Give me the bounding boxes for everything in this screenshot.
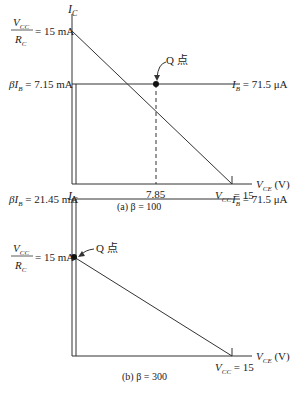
ic-max-label-b: = 15 mA [35, 251, 74, 263]
frac-num-b: VCC [13, 242, 29, 257]
chart-b: IC IC βIB = 21.45 mA IB = 71.5 μA VCC RC… [8, 189, 290, 383]
load-line-a [72, 31, 232, 184]
chart-a: IC VCC RC = 15 mA βIB = 7.15 mA IB = 71.… [8, 2, 290, 213]
beta-ib-label-a: βIB = 7.15 mA [8, 78, 73, 93]
frac-num-a: VCC [13, 16, 29, 31]
caption-a: (a) β = 100 [117, 201, 161, 213]
vcc-label-b: VCC = 15 [215, 361, 254, 376]
xlabel-b: VCE (V) [256, 350, 290, 365]
vce-q-label-a: 7.85 [146, 188, 166, 200]
q-point-a [153, 81, 159, 87]
q-label-a: Q 点 [166, 54, 188, 66]
ib-label-a: IB = 71.5 μA [231, 78, 288, 93]
caption-b: (b) β = 300 [122, 371, 167, 383]
frac-den-a: RC [14, 33, 27, 48]
ic-max-label-a: = 15 mA [35, 25, 74, 37]
q-label-b: Q 点 [96, 242, 118, 254]
q-arrowhead-a [154, 75, 160, 81]
xlabel-a: VCE (V) [256, 178, 290, 193]
beta-ib-label-b: βIB = 21.45 mA [8, 193, 78, 208]
ib-label-b: IB = 71.5 μA [231, 193, 288, 208]
frac-den-b: RC [14, 259, 27, 274]
diagram-canvas: IC VCC RC = 15 mA βIB = 7.15 mA IB = 71.… [0, 0, 301, 396]
load-line-b [74, 257, 232, 356]
ylabel-a: IC [67, 2, 78, 18]
